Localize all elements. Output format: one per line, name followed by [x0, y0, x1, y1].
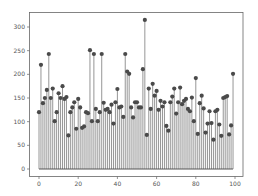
stem-marker	[188, 109, 192, 113]
stem-marker	[127, 72, 131, 76]
stem-marker	[153, 94, 157, 98]
y-tick-label: 0	[21, 165, 25, 172]
stem-marker	[215, 108, 219, 112]
stem-marker	[53, 119, 57, 123]
x-tick-label: 20	[74, 180, 82, 187]
stem-marker	[198, 101, 202, 105]
x-tick-label: 0	[37, 180, 41, 187]
stem-marker	[207, 109, 211, 113]
stem-marker	[156, 108, 160, 112]
y-tick-label: 300	[14, 23, 26, 30]
stem-marker	[49, 96, 53, 100]
stem-marker	[100, 52, 104, 56]
stem-marker	[115, 87, 119, 91]
stem-marker	[231, 72, 235, 76]
stem-marker	[141, 67, 145, 71]
stem-marker	[164, 124, 168, 128]
x-tick-label: 80	[192, 180, 200, 187]
x-axis: 020406080100	[37, 177, 241, 188]
stem-marker	[78, 105, 82, 109]
stem-marker	[172, 86, 176, 90]
stem-marker	[74, 127, 78, 131]
stem-marker	[135, 100, 139, 104]
stem-marker	[192, 119, 196, 123]
stem-marker	[227, 132, 231, 136]
stem-marker	[64, 95, 68, 99]
stem-marker	[147, 86, 151, 90]
stem-marker	[176, 100, 180, 104]
stem-marker	[94, 107, 98, 111]
stem-marker	[158, 99, 162, 103]
stem-marker	[66, 133, 70, 137]
stem-marker	[229, 123, 233, 127]
stem-marker	[70, 105, 74, 109]
stem-marker	[47, 52, 51, 56]
stem-marker	[196, 132, 200, 136]
stem-marker	[90, 119, 94, 123]
stem-marker	[39, 63, 43, 67]
stem-marker	[107, 110, 111, 114]
stem-marker	[174, 112, 178, 116]
stem-marker	[60, 84, 64, 88]
stem-marker	[151, 82, 155, 86]
stem-marker	[225, 94, 229, 98]
stem-marker	[72, 100, 76, 104]
stem-marker	[209, 121, 213, 125]
x-tick-label: 60	[153, 180, 161, 187]
stem-marker	[98, 110, 102, 114]
stem-marker	[194, 76, 198, 80]
plot-frame	[30, 13, 244, 177]
stem-marker	[121, 115, 125, 119]
stem-marker	[170, 94, 174, 98]
stem-marker	[166, 129, 170, 133]
y-tick-label: 100	[14, 118, 26, 125]
y-axis: 050100150200250300	[14, 23, 30, 172]
stem-marker	[205, 121, 209, 125]
stem-marker	[202, 106, 206, 110]
stem-marker	[200, 94, 204, 98]
stem-marker	[111, 121, 115, 125]
stem-marker	[219, 134, 223, 138]
stem-marker	[190, 95, 194, 99]
stem-marker	[149, 107, 153, 111]
stem-marker	[45, 88, 49, 92]
stem-marker	[217, 122, 221, 126]
stem-marker	[76, 97, 80, 101]
stem-marker	[168, 100, 172, 104]
stem-marker	[55, 110, 59, 114]
stem-marker	[184, 97, 188, 101]
stem-marker	[178, 85, 182, 89]
stem-marker	[37, 110, 41, 114]
stem-marker	[160, 104, 164, 108]
stem-marker	[68, 110, 72, 114]
stem-marker	[82, 124, 86, 128]
y-tick-label: 150	[14, 94, 26, 101]
stem-marker	[129, 105, 133, 109]
stem-marker	[102, 101, 106, 105]
stem-marker	[131, 115, 135, 119]
y-tick-label: 200	[14, 70, 26, 77]
stem-marker	[86, 111, 90, 115]
stem-marker	[57, 91, 61, 95]
stem-chart: 050100150200250300 020406080100	[0, 0, 258, 196]
y-tick-label: 250	[14, 47, 26, 54]
stem-marker	[155, 89, 159, 93]
x-tick-label: 100	[229, 180, 241, 187]
stem-marker	[43, 96, 47, 100]
x-tick-label: 40	[114, 180, 122, 187]
stem-marker	[123, 52, 127, 56]
stem-marker	[58, 96, 62, 100]
stem-marker	[119, 104, 123, 108]
stem-marker	[204, 130, 208, 134]
y-tick-label: 50	[17, 141, 25, 148]
stem-marker	[96, 119, 100, 123]
stem-marker	[88, 48, 92, 52]
stem-marker	[139, 105, 143, 109]
stem-marker	[145, 133, 149, 137]
stem-marker	[143, 18, 147, 22]
stem-marker	[51, 86, 55, 90]
stem-marker	[162, 100, 166, 104]
stem-marker	[41, 101, 45, 105]
stem-marker	[109, 103, 113, 107]
stem-marker	[92, 52, 96, 56]
